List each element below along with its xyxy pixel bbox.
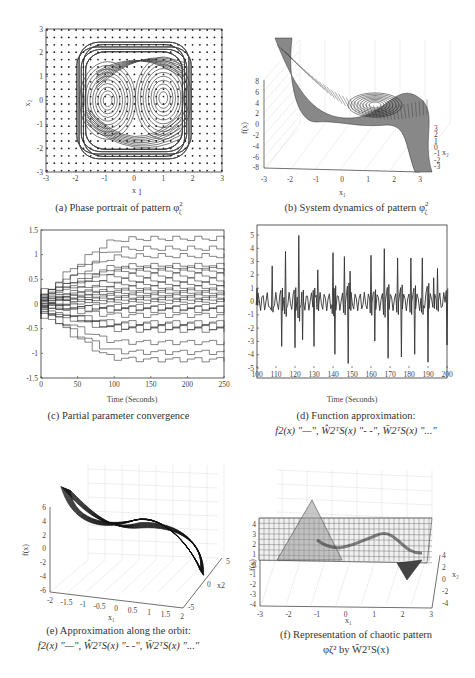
tick-label: -1.5 xyxy=(61,598,73,607)
tick-label: -1 xyxy=(102,174,108,183)
tick-label: -4 xyxy=(250,600,256,609)
caption-a: (a) Phase portrait of pattern φ2ζ xyxy=(0,197,237,220)
tick-label: 3 xyxy=(429,610,433,619)
tick-label: 2 xyxy=(442,563,446,572)
tick-label: 3 xyxy=(252,530,256,539)
tick-label: -2 xyxy=(287,175,293,184)
tick-label: -2 xyxy=(442,587,448,596)
tick-label: 1 xyxy=(147,608,151,617)
tick-label: -1 xyxy=(37,120,43,129)
tick-label: 4 xyxy=(255,99,259,108)
tick-label: 0 xyxy=(207,580,211,589)
tick-label: -1 xyxy=(80,600,86,609)
tick-label: 0 xyxy=(39,96,43,105)
tick-label: 1.5 xyxy=(161,610,171,619)
tick-label: -2 xyxy=(47,596,53,605)
tick-label: 3 xyxy=(39,25,43,34)
tick-label: -1 xyxy=(32,349,38,358)
tick-label: -3 xyxy=(43,174,49,183)
system-dynamics-3d-plot: 86420-2-4-6-8-3-2-101233210-1-2-3 x₁ f(x… xyxy=(237,0,475,225)
tick-label: -3 xyxy=(37,168,43,177)
tick-label: 250 xyxy=(218,380,230,389)
tick-label: -3 xyxy=(248,337,254,346)
svg-text:x₁: x₁ xyxy=(108,613,115,622)
panel-c-parameter-convergence: 0501001502002501.510.50-0.5-1-1.5 Time (… xyxy=(0,225,237,435)
tick-label: 0 xyxy=(34,300,38,309)
tick-label: -2 xyxy=(250,580,256,589)
tick-label: 0 xyxy=(132,174,136,183)
tick-label: 4 xyxy=(42,517,46,526)
tick-label: 4 xyxy=(252,520,256,529)
tick-label: -2 xyxy=(40,558,46,567)
tick-label: 1 xyxy=(250,284,254,293)
tick-label: 190 xyxy=(422,370,434,379)
tick-label: -1 xyxy=(314,610,320,619)
tick-label: -2 xyxy=(72,174,78,183)
tick-label: 0 xyxy=(442,575,446,584)
tick-label: -2 xyxy=(285,610,291,619)
tick-label: 3 xyxy=(250,257,254,266)
tick-label: 2 xyxy=(42,531,46,540)
tick-label: 2 xyxy=(191,174,195,183)
svg-text:x₂: x₂ xyxy=(442,148,449,157)
tick-label: -0.5 xyxy=(94,602,106,611)
tick-label: 1 xyxy=(34,250,38,259)
tick-label: 0 xyxy=(255,120,259,129)
tick-label: 150 xyxy=(145,380,157,389)
svg-text:x₁: x₁ xyxy=(345,616,352,625)
panel-a-phase-portrait: -3-2-101233210-1-2-3 x 1 x₂ (a) Phase po… xyxy=(0,0,237,225)
caption-e: (e) Approximation along the orbit: f2(x)… xyxy=(0,623,237,653)
tick-label: 2 xyxy=(401,610,405,619)
panel-d-function-approximation: 100110120130140150160170180190200543210-… xyxy=(237,225,475,465)
panel-e-orbit-approximation: 6420-2-4-6-2-1.5-1-0.500.511.5250-5 x₁ f… xyxy=(0,465,237,678)
tick-label: 4 xyxy=(250,244,254,253)
tick-label: -6 xyxy=(40,586,46,595)
x-axis-label: Time (Seconds) xyxy=(327,395,378,404)
tick-label: 0 xyxy=(42,544,46,553)
tick-label: 2 xyxy=(255,109,259,118)
tick-label: 6 xyxy=(255,88,259,97)
tick-label: -3 xyxy=(434,162,440,171)
tick-label: 170 xyxy=(384,370,396,379)
phase-portrait-plot: -3-2-101233210-1-2-3 x 1 x₂ xyxy=(0,0,237,225)
tick-label: -1 xyxy=(248,310,254,319)
tick-label: -1.5 xyxy=(26,374,38,383)
tick-label: -4 xyxy=(253,142,259,151)
tick-label: -0.5 xyxy=(26,324,38,333)
svg-text:f(x): f(x) xyxy=(21,544,30,556)
tick-label: 1.5 xyxy=(29,226,39,235)
tick-label: 2 xyxy=(39,48,43,57)
tick-label: 5 xyxy=(226,557,230,566)
tick-label: 5 xyxy=(250,231,254,240)
tick-label: 2 xyxy=(250,270,254,279)
tick-label: -3 xyxy=(261,175,267,184)
tick-label: -5 xyxy=(188,603,194,612)
tick-label: -6 xyxy=(253,153,259,162)
tick-label: 2 xyxy=(252,540,256,549)
panel-b-system-dynamics: 86420-2-4-6-8-3-2-101233210-1-2-3 x₁ f(x… xyxy=(237,0,475,225)
tick-label: -8 xyxy=(253,163,259,172)
tick-label: 180 xyxy=(403,370,415,379)
tick-label: -1 xyxy=(313,175,319,184)
tick-label: 0 xyxy=(340,175,344,184)
tick-label: 200 xyxy=(182,380,194,389)
tick-label: 130 xyxy=(308,370,320,379)
tick-label: 3 xyxy=(220,174,224,183)
tick-label: -2 xyxy=(253,131,259,140)
parameter-convergence-plot: 0501001502002501.510.50-0.5-1-1.5 Time (… xyxy=(0,225,237,435)
tick-label: -2 xyxy=(248,324,254,333)
panel-f-chaotic-pattern-representation: 43210-1-2-3-4-3-2-10123420-2-4 x₁ f(x) x… xyxy=(237,465,475,678)
tick-label: 2 xyxy=(392,175,396,184)
tick-label: 0 xyxy=(250,297,254,306)
tick-label: 0.5 xyxy=(29,275,39,284)
tick-label: 0 xyxy=(39,380,43,389)
tick-label: 6 xyxy=(42,503,46,512)
caption-f: (f) Representation of chaotic pattern φζ… xyxy=(237,627,475,657)
tick-label: -4 xyxy=(248,350,254,359)
tick-label: 200 xyxy=(441,370,453,379)
caption-d: (d) Function approximation: f2(x) "—", Ŵ… xyxy=(237,408,475,438)
tick-label: -3 xyxy=(250,590,256,599)
tick-label: 1 xyxy=(252,550,256,559)
tick-label: 0.5 xyxy=(128,606,138,615)
tick-label: 1 xyxy=(366,175,370,184)
